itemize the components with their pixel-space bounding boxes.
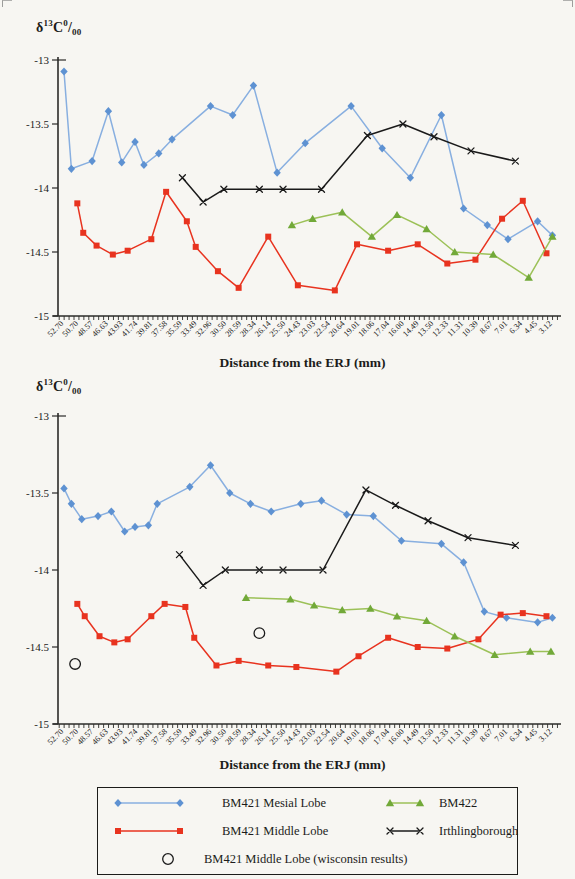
bottom-chart-x-axis-title: Distance from the ERJ (mm) [30,757,575,773]
x-tick-label: 46.63 [90,727,110,747]
x-tick-label: 37.58 [149,727,169,747]
top-chart-canvas: -13-13.5-14-14.5-1552.7050.7048.5746.634… [0,0,575,352]
legend-label: BM421 Mesial Lobe [222,796,326,811]
x-tick-label: 32.96 [194,727,214,747]
x-tick-label: 33.49 [179,727,199,747]
x-tick-label: 6.34 [508,318,525,335]
x-tick-label: 10.39 [460,319,480,339]
middle-lobe-marker-icon [112,824,186,838]
chart-bottom-series-bm421-middle-lobe [74,601,549,675]
x-tick-label: 39.81 [135,727,155,747]
y-tick-label: -13 [34,410,49,422]
chart-top-series-bm422 [288,208,557,280]
x-tick-label: 46.63 [90,319,110,339]
wisconsin-circle-icon [160,851,176,867]
x-tick-label: 19.01 [342,319,362,339]
y-tick-label: -14 [34,182,49,194]
x-tick-label: 23.03 [297,319,317,339]
bm422-marker-icon [384,796,426,810]
chart-top-series-bm421-mesial-lobe [60,67,556,243]
legend-label: BM421 Middle Lobe [222,824,328,839]
x-tick-label: 52.70 [46,319,66,339]
x-tick-label: 7.01 [493,727,510,744]
x-tick-label: 10.39 [460,727,480,747]
x-tick-label: 50.70 [61,727,81,747]
y-tick-label: -13 [34,54,49,66]
x-tick-label: 13.50 [416,319,436,339]
x-tick-label: 28.59 [223,319,243,339]
legend-label: Irthlingborough [439,824,518,839]
x-tick-label: 12.33 [431,319,451,339]
y-tick-label: -15 [34,718,49,730]
top-chart-x-axis-title: Distance from the ERJ (mm) [30,355,575,371]
x-tick-label: 35.59 [164,727,184,747]
legend-item-mesial: BM421 Mesial Lobe [112,795,326,811]
x-tick-label: 14.49 [401,727,421,747]
legend-box: BM421 Mesial Lobe BM422 BM421 Middle Lob… [97,787,518,875]
x-tick-label: 48.57 [75,727,95,747]
legend-label: BM422 [439,796,477,811]
legend-item-middle: BM421 Middle Lobe [112,823,328,839]
legend-item-irthlingborough: Irthlingborough [384,823,518,839]
x-tick-label: 50.70 [61,319,81,339]
x-tick-label: 7.01 [493,319,510,336]
x-tick-label: 4.45 [522,319,539,336]
chart-bottom-x-labels: 52.7050.7048.5746.6343.9341.7439.8137.58… [46,726,554,746]
chart-bottom-series-bm421-mesial-lobe [60,461,556,626]
chart-top-series-irthlingborough [179,121,518,205]
x-tick-label: 4.45 [522,727,539,744]
x-tick-label: 13.50 [416,727,436,747]
x-tick-label: 12.33 [431,727,451,747]
x-tick-label: 23.03 [297,727,317,747]
y-tick-label: -15 [34,310,49,322]
mesial-lobe-marker-icon [112,796,186,810]
x-tick-label: 30.50 [209,727,229,747]
x-tick-label: 35.59 [164,319,184,339]
x-tick-label: 8.67 [478,319,495,336]
x-tick-label: 19.01 [342,727,362,747]
x-tick-label: 39.81 [135,319,155,339]
x-tick-label: 3.12 [537,319,554,336]
x-tick-label: 6.34 [508,726,525,743]
y-tick-label: -14.5 [26,641,49,653]
x-tick-label: 8.67 [478,727,495,744]
x-tick-label: 48.57 [75,319,95,339]
x-tick-label: 24.43 [283,319,303,339]
x-tick-label: 16.00 [386,319,406,339]
y-tick-label: -14.5 [26,246,49,258]
legend-item-wisconsin: BM421 Middle Lobe (wisconsin results) [160,851,407,867]
x-tick-label: 3.12 [537,727,554,744]
x-tick-label: 52.70 [46,727,66,747]
y-tick-label: -14 [34,564,49,576]
x-tick-label: 25.50 [268,319,288,339]
x-tick-label: 14.49 [401,319,421,339]
x-tick-label: 37.58 [149,319,169,339]
bottom-chart-canvas: -13-13.5-14-14.5-1552.7050.7048.5746.634… [0,400,575,756]
figure-page: δ13C0/00 -13-13.5-14-14.5-1552.7050.7048… [0,0,575,879]
x-tick-label: 32.96 [194,319,214,339]
x-tick-label: 25.50 [268,727,288,747]
x-tick-label: 43.93 [105,319,125,339]
chart-bottom-series-bm422 [242,594,555,658]
legend-label: BM421 Middle Lobe (wisconsin results) [204,852,407,867]
chart-top-series-bm421-middle-lobe [74,189,549,294]
x-tick-label: 18.06 [357,319,377,339]
x-tick-label: 28.59 [223,727,243,747]
x-tick-label: 16.00 [386,727,406,747]
x-tick-label: 24.43 [283,727,303,747]
x-tick-label: 30.50 [209,319,229,339]
bottom-chart-y-axis-label: δ13C0/00 [36,377,81,396]
y-tick-label: -13.5 [26,487,49,499]
irthlingborough-marker-icon [384,824,426,838]
chart-top-axes: -13-13.5-14-14.5-15 [26,54,561,322]
y-tick-label: -13.5 [26,118,49,130]
x-tick-label: 43.93 [105,727,125,747]
x-tick-label: 33.49 [179,319,199,339]
chart-bottom-series-irthlingborough [176,487,518,588]
x-tick-label: 18.06 [357,727,377,747]
legend-item-bm422: BM422 [384,795,477,811]
chart-top-x-labels: 52.7050.7048.5746.6343.9341.7439.8137.58… [46,318,554,338]
